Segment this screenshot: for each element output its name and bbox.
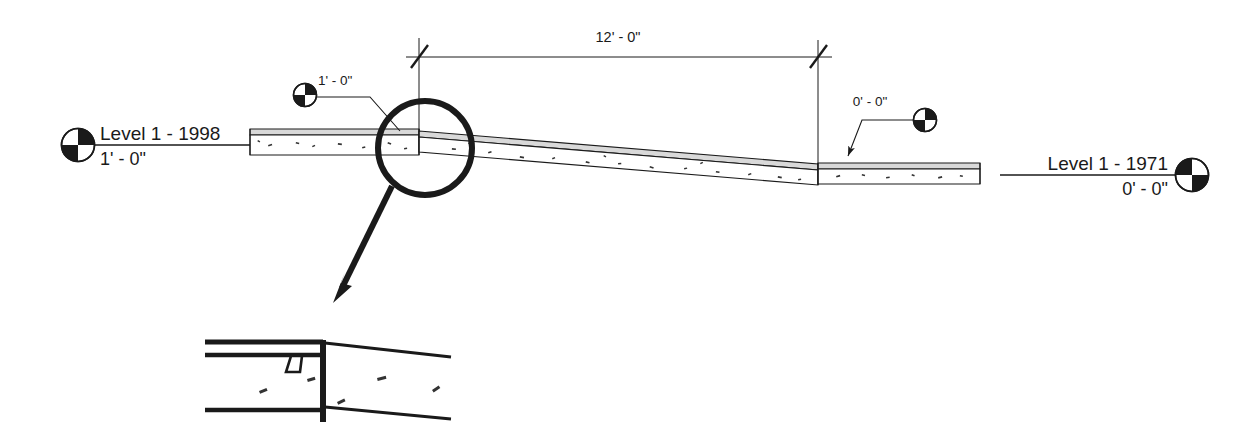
level-name-left: Level 1 - 1998: [100, 123, 220, 144]
concrete-hatch: [259, 376, 440, 405]
level-marker-left[interactable]: Level 1 - 1998 1' - 0": [62, 123, 251, 169]
slab-right-topping: [818, 163, 980, 169]
slab-left-flat: [250, 129, 419, 155]
level-symbol-icon: [62, 129, 95, 162]
spot-elevation-label-low: 0' - 0": [853, 94, 888, 109]
slab-left-body: [250, 135, 419, 155]
spot-symbol-icon: [294, 84, 317, 107]
spot-elevation-label-high: 1' - 0": [318, 73, 353, 88]
slab-assembly: [250, 129, 980, 185]
slab-sloped: [419, 131, 818, 185]
level-elevation-right: 0' - 0": [1122, 179, 1168, 199]
spot-elevation-low[interactable]: 0' - 0": [848, 94, 937, 156]
slab-right-body: [818, 169, 980, 184]
dimension-label: 12' - 0": [596, 29, 641, 45]
detail-triangle-icon: [286, 356, 302, 372]
detail-sloped-top: [325, 343, 451, 357]
callout-arrow-shaft: [342, 186, 392, 288]
level-symbol-icon: [1176, 159, 1209, 192]
slab-left-topping: [250, 129, 419, 135]
section-drawing: Level 1 - 1998 1' - 0" Level 1 - 1971 0'…: [0, 0, 1240, 438]
level-elevation-left: 1' - 0": [100, 149, 146, 169]
level-marker-right[interactable]: Level 1 - 1971 0' - 0": [1000, 153, 1209, 199]
drawing-canvas: Level 1 - 1998 1' - 0" Level 1 - 1971 0'…: [0, 0, 1240, 438]
detail-callout-arrow: [333, 186, 392, 303]
slab-right-flat: [818, 163, 980, 184]
level-name-right: Level 1 - 1971: [1048, 153, 1168, 174]
enlarged-detail-view[interactable]: [205, 340, 451, 422]
detail-sloped-bottom: [325, 407, 451, 419]
spot-symbol-icon: [914, 109, 937, 132]
spot-leader-line: [317, 97, 400, 131]
spot-leader-line: [848, 120, 913, 156]
